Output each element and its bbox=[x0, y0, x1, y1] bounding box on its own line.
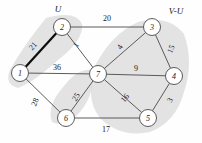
graph-edge-1-6 bbox=[26, 79, 60, 112]
edge-weight-label-6-5: 17 bbox=[102, 125, 110, 134]
graph-node-label-1: 1 bbox=[18, 69, 22, 78]
graph-node-label-5: 5 bbox=[146, 114, 150, 123]
graph-node-label-2: 2 bbox=[60, 23, 64, 32]
edge-weight-label-1-7: 36 bbox=[53, 63, 61, 72]
set-labels-layer: UV-U bbox=[55, 4, 184, 16]
weighted-graph-figure: 21201362841593162517 1234567 UV-U bbox=[0, 0, 202, 143]
graph-node-label-4: 4 bbox=[172, 72, 176, 81]
edge-weight-label-7-4: 9 bbox=[134, 64, 138, 73]
v-minus-u-set-label: V-U bbox=[169, 6, 184, 16]
u-set-label: U bbox=[55, 4, 62, 14]
graph-node-label-6: 6 bbox=[64, 114, 68, 123]
edge-weight-label-1-6: 28 bbox=[29, 97, 40, 108]
graph-canvas: 21201362841593162517 1234567 UV-U bbox=[0, 0, 202, 143]
edge-weight-label-2-3: 20 bbox=[103, 14, 111, 23]
graph-edge-2-7 bbox=[67, 34, 93, 68]
graph-node-label-3: 3 bbox=[149, 23, 154, 32]
